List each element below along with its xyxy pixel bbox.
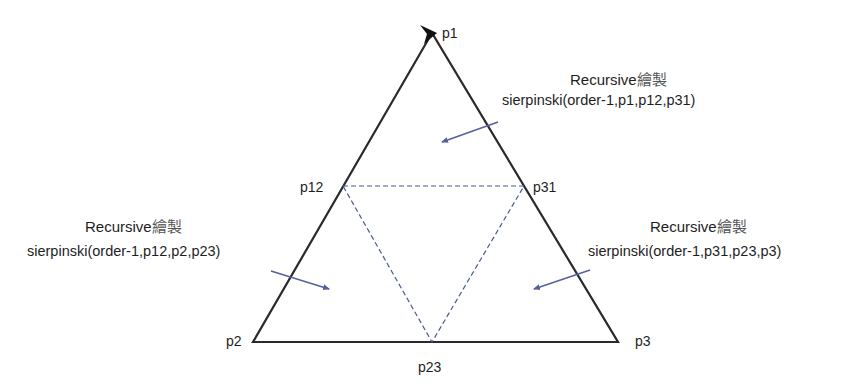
sierpinski-diagram <box>0 0 850 391</box>
heading-cjk-text: 繪製 <box>717 218 747 236</box>
point-label-p3: p3 <box>635 333 651 349</box>
annotation-top-heading: Recursive繪製 <box>570 68 667 89</box>
annotation-right-heading: Recursive繪製 <box>650 215 747 236</box>
annotation-top-call: sierpinski(order-1,p1,p12,p31) <box>502 92 695 108</box>
heading-text: Recursive <box>650 218 717 235</box>
heading-text: Recursive <box>570 71 637 88</box>
annotation-left-call: sierpinski(order-1,p12,p2,p23) <box>27 243 220 259</box>
point-label-p31: p31 <box>533 179 556 195</box>
point-label-p23: p23 <box>418 359 441 375</box>
annotation-left-heading: Recursive繪製 <box>85 215 182 236</box>
heading-text: Recursive <box>85 218 152 235</box>
annotation-right-call: sierpinski(order-1,p31,p23,p3) <box>588 243 781 259</box>
arrow-left <box>271 271 329 289</box>
heading-cjk-text: 繪製 <box>152 218 182 236</box>
arrow-top <box>442 122 498 142</box>
heading-cjk-text: 繪製 <box>637 71 667 89</box>
point-label-p12: p12 <box>300 179 323 195</box>
inner-dashed-triangle <box>343 186 524 342</box>
point-label-p1: p1 <box>442 25 458 41</box>
point-label-p2: p2 <box>226 333 242 349</box>
